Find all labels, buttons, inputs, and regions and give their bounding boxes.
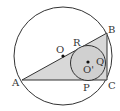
- label-c: C: [108, 80, 116, 91]
- label-b: B: [108, 24, 115, 35]
- label-q: Q: [96, 56, 104, 67]
- label-o-prime: O': [83, 64, 94, 75]
- label-p: P: [83, 82, 90, 93]
- geometry-diagram: A B C O O' P Q R: [0, 0, 120, 111]
- label-r: R: [73, 37, 81, 48]
- label-a: A: [11, 77, 20, 88]
- label-o: O: [56, 44, 64, 55]
